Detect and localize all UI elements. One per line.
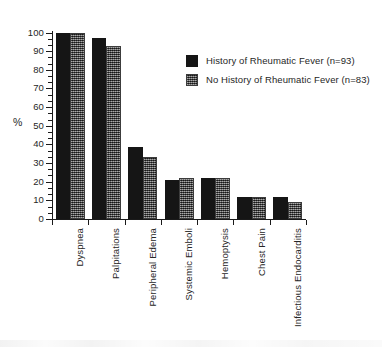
legend-item: No History of Rheumatic Fever (n=83) — [186, 70, 370, 89]
x-axis-line — [52, 219, 306, 220]
x-category-label: Systemic Emboli — [184, 228, 194, 300]
x-category-label: Hemoptysis — [220, 228, 230, 279]
x-category-label: Dyspnea — [75, 228, 85, 267]
bar — [237, 197, 252, 219]
bar — [106, 46, 121, 219]
y-tick-label-wrap: 0 — [20, 214, 44, 224]
y-tick-label-wrap: 70 — [20, 83, 44, 93]
y-tick-label: 10 — [22, 195, 44, 205]
scan-noise-artifact — [0, 340, 382, 347]
y-tick-label: 70 — [22, 83, 44, 93]
y-tick-label-wrap: 60 — [20, 102, 44, 112]
y-tick-label-wrap: 40 — [20, 139, 44, 149]
legend-label: History of Rheumatic Fever (n=93) — [206, 55, 355, 66]
bar — [128, 147, 143, 219]
x-category-label: Peripheral Edema — [148, 228, 158, 306]
y-tick-label: 20 — [22, 177, 44, 187]
bar — [201, 178, 216, 219]
y-tick-label-wrap: 20 — [20, 177, 44, 187]
y-tick-label-wrap: 80 — [20, 65, 44, 75]
x-tick — [52, 220, 53, 225]
legend-swatch-dither — [186, 74, 198, 86]
bar — [179, 178, 194, 219]
bar — [143, 157, 158, 219]
x-category-label: Chest Pain — [257, 228, 267, 276]
y-tick-label: 40 — [22, 139, 44, 149]
x-category-label: Palpitations — [111, 228, 121, 279]
bar — [56, 33, 71, 220]
legend-item: History of Rheumatic Fever (n=93) — [186, 51, 370, 70]
bar — [70, 33, 85, 220]
bar — [288, 202, 303, 219]
x-tick — [197, 220, 198, 225]
y-tick-label-wrap: 90 — [20, 46, 44, 56]
x-tick — [233, 220, 234, 225]
y-tick-label: 90 — [22, 46, 44, 56]
bar — [273, 197, 288, 219]
bar — [215, 178, 230, 219]
bar — [165, 180, 180, 219]
y-tick-label: 0 — [22, 214, 44, 224]
y-tick-label: 30 — [22, 158, 44, 168]
chart-legend: History of Rheumatic Fever (n=93)No Hist… — [186, 51, 370, 89]
y-tick-label-wrap: 100 — [20, 28, 44, 38]
x-tick — [125, 220, 126, 225]
bar — [252, 197, 267, 219]
y-tick-label: 100 — [22, 28, 44, 38]
y-tick-label-wrap: 30 — [20, 158, 44, 168]
legend-label: No History of Rheumatic Fever (n=83) — [206, 74, 370, 85]
y-tick-label-wrap: 50 — [20, 121, 44, 131]
y-tick-label: 80 — [22, 65, 44, 75]
y-tick-label: 60 — [22, 102, 44, 112]
x-tick — [88, 220, 89, 225]
bar — [92, 38, 107, 219]
x-tick — [161, 220, 162, 225]
y-tick-label: 50 — [22, 121, 44, 131]
x-tick — [306, 220, 307, 225]
x-tick — [270, 220, 271, 225]
bar-chart-figure: % 0102030405060708090100 DyspneaPalpitat… — [0, 0, 382, 347]
y-tick-label-wrap: 10 — [20, 195, 44, 205]
x-category-label: Infectious Endocarditis — [293, 228, 303, 327]
legend-swatch-solid — [186, 55, 198, 67]
